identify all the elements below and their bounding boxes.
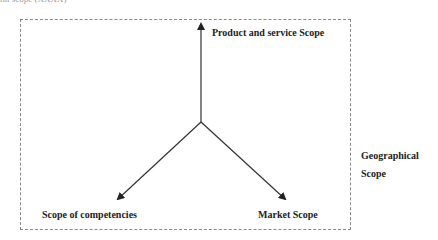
geographical-scope-line1: Geographical xyxy=(361,147,431,165)
geographical-scope-line2: Scope xyxy=(361,165,431,183)
product-service-scope-label: Product and service Scope xyxy=(212,27,324,38)
competencies-axis-arrow xyxy=(118,122,201,199)
competencies-scope-label: Scope of competencies xyxy=(42,209,137,220)
market-axis-arrow xyxy=(201,122,285,199)
market-scope-label: Market Scope xyxy=(258,209,318,220)
geographical-scope-label: Geographical Scope xyxy=(361,147,431,183)
